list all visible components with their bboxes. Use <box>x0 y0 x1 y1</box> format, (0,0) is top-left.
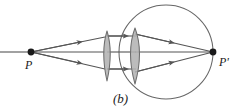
ray-lower-p-to-lens1-arrow <box>31 52 80 63</box>
optics-figure: P P' (b) <box>0 0 241 112</box>
ray-upper-p-to-lens1-arrow <box>31 42 80 52</box>
image-point-P-prime <box>210 49 217 56</box>
ray-upper-lens2-to-image-arrow <box>135 34 172 43</box>
ray-lower-lens2-to-image-arrow <box>135 63 172 73</box>
object-point-label: P <box>25 59 32 71</box>
lens-1 <box>104 31 111 81</box>
image-point-label: P' <box>219 56 229 68</box>
object-point-P <box>28 49 35 56</box>
figure-caption: (b) <box>0 91 241 107</box>
